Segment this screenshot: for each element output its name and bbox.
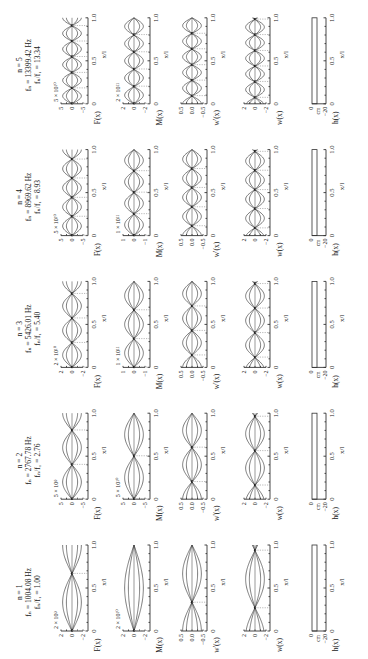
y-tick: −20 — [322, 634, 328, 643]
panel-fx-n4: 00.51.0x/lF(x)50−55 × 10¹⁰ — [53, 146, 108, 257]
scale-label: 5 × 10⁹ — [53, 480, 59, 497]
row-label: M(x) — [155, 373, 164, 389]
x-tick: 1.0 — [272, 14, 279, 22]
mode-column-1: n = 1fₙ = 1004.08 Hzfₙ/f₁ = 1.0000.51.0x… — [15, 541, 346, 653]
y-tick: 0.0 — [189, 239, 195, 247]
x-tick: 1.0 — [152, 541, 159, 549]
x-axis-label: x/l — [338, 183, 346, 190]
mode-number: n = 4 — [15, 189, 24, 205]
scale-label: 1 × 10¹¹ — [115, 346, 121, 365]
x-tick: 0 — [328, 234, 335, 237]
row-label: h(x) — [331, 243, 340, 256]
x-tick: 1.0 — [272, 146, 279, 154]
y-tick: 5 — [58, 107, 64, 110]
x-tick: 0.5 — [328, 584, 335, 592]
x-tick: 0.5 — [90, 189, 97, 197]
mode-column-4: n = 4fₙ = 8969.62 Hzfₙ/f₁ = 8.9300.51.0x… — [15, 146, 346, 258]
y-tick: 0 — [252, 107, 258, 110]
y-tick: 0 — [252, 370, 258, 373]
y-tick: −2 — [263, 239, 269, 245]
panel-wx-n3: 00.51.0x/lw'(x)0.50.0−0.5 — [178, 277, 227, 389]
x-axis-label: x/l — [162, 578, 170, 585]
x-tick: 1.0 — [328, 146, 335, 154]
y-tick: 1 — [120, 370, 126, 373]
y-tick: 2 — [58, 634, 64, 637]
y-tick: 0.5 — [178, 634, 184, 642]
x-tick: 0 — [152, 366, 159, 369]
x-axis-label: x/l — [219, 446, 227, 453]
x-axis-label: x/l — [219, 315, 227, 322]
x-axis-label: x/l — [282, 315, 290, 322]
x-axis-label: x/l — [338, 315, 346, 322]
x-axis-label: x/l — [282, 51, 290, 58]
x-axis-label: x/l — [162, 446, 170, 453]
x-axis-label: x/l — [338, 446, 346, 453]
mode-frequency: fₙ = 5426.01 Hz — [24, 304, 33, 353]
x-tick: 0 — [209, 102, 216, 105]
x-tick: 0 — [209, 629, 216, 632]
x-axis-label: x/l — [162, 315, 170, 322]
x-axis-label: x/l — [100, 446, 108, 453]
x-tick: 1.0 — [328, 409, 335, 417]
y-tick: 0 — [69, 239, 75, 242]
y-tick: −2 — [80, 370, 86, 376]
y-tick: 0 — [252, 634, 258, 637]
row-label: h(x) — [331, 111, 340, 124]
row-label: F(x) — [93, 374, 102, 387]
scale-label: 5 × 10¹⁰ — [53, 82, 59, 102]
x-tick: 1.0 — [90, 146, 97, 154]
panel-hx-n4: 00.51.0x/lh(x)0−20cm — [308, 146, 346, 256]
y-tick: 2 — [241, 370, 247, 373]
panel-mx-n5: 00.51.0x/lM(x)20−22 × 10¹¹ — [115, 14, 170, 126]
panel-fx-n5: 00.51.0x/lF(x)50−55 × 10¹⁰ — [53, 14, 108, 125]
y-tick: 0 — [131, 370, 137, 373]
y-tick: 0 — [131, 502, 137, 505]
row-label: w(x) — [275, 110, 284, 125]
x-tick: 1.0 — [90, 541, 97, 549]
panel-mx-n3: 00.51.0x/lM(x)10−11 × 10¹¹ — [115, 277, 170, 389]
y-tick: 5 — [120, 502, 126, 505]
x-tick: 0.5 — [90, 452, 97, 460]
scale-label: 2 × 10¹⁰ — [115, 609, 121, 629]
x-tick: 0.5 — [152, 57, 159, 65]
y-tick: 0.5 — [178, 107, 184, 115]
x-tick: 0 — [90, 234, 97, 237]
x-axis-label: x/l — [282, 446, 290, 453]
y-tick: 0 — [308, 370, 314, 373]
y-tick: 0.0 — [189, 370, 195, 378]
unit-label: cm — [315, 634, 321, 641]
row-label: h(x) — [331, 375, 340, 388]
x-tick: 0 — [328, 102, 335, 105]
y-tick: 0 — [308, 239, 314, 242]
panel-wx-n4: 00.51.0x/lw'(x)0.50.0−0.5 — [178, 146, 227, 258]
x-tick: 1.0 — [209, 541, 216, 549]
panel-mx-n1: 00.51.0x/lM(x)20−22 × 10¹⁰ — [115, 541, 170, 653]
row-label: F(x) — [93, 638, 102, 651]
panel-hx-n3: 00.51.0x/lh(x)0−20cm — [308, 277, 346, 387]
y-tick: 0 — [252, 239, 258, 242]
row-label: w(x) — [275, 637, 284, 652]
x-axis-label: x/l — [100, 51, 108, 58]
row-label: w'(x) — [212, 110, 221, 126]
x-tick: 0.5 — [209, 584, 216, 592]
panel-wx-n1: 00.51.0x/lw(x)20−2 — [241, 541, 290, 652]
x-tick: 1.0 — [152, 277, 159, 285]
x-tick: 0.5 — [152, 189, 159, 197]
x-tick: 0.5 — [90, 57, 97, 65]
y-tick: −2 — [142, 107, 148, 113]
y-tick: 0.5 — [178, 502, 184, 510]
x-tick: 0.5 — [152, 452, 159, 460]
mode-column-2: n = 2fₙ = 2767.78 Hzfₙ/f₁ = 2.7600.51.0x… — [15, 409, 346, 521]
x-tick: 1.0 — [272, 277, 279, 285]
y-tick: 0.0 — [189, 502, 195, 510]
y-tick: −0.5 — [200, 634, 206, 645]
y-tick: 0 — [69, 634, 75, 637]
x-tick: 1.0 — [272, 409, 279, 417]
unit-label: cm — [315, 107, 321, 114]
scale-label: 1 × 10¹¹ — [115, 214, 121, 233]
mode-column-3: n = 3fₙ = 5426.01 Hzfₙ/f₁ = 5.4000.51.0x… — [15, 277, 346, 389]
x-tick: 0.5 — [152, 584, 159, 592]
x-tick: 0 — [152, 629, 159, 632]
x-tick: 0.5 — [272, 320, 279, 328]
y-tick: 2 — [241, 239, 247, 242]
